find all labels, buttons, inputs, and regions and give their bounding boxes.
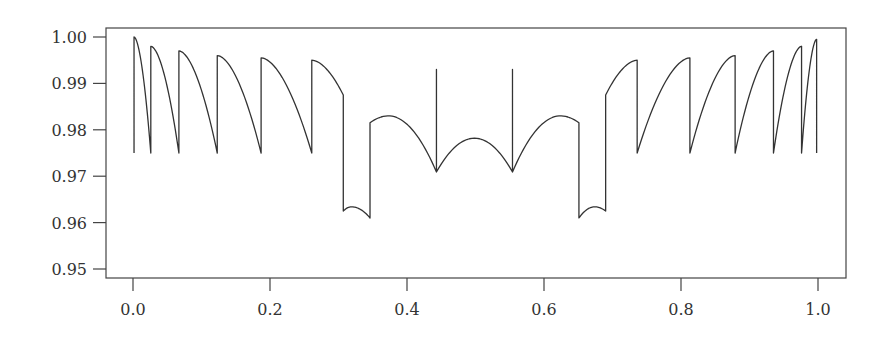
x-tick-label: 0.6	[531, 300, 556, 319]
y-tick-label: 0.96	[51, 214, 87, 233]
y-tick-label: 0.97	[51, 167, 87, 186]
x-tick-label: 0.8	[668, 300, 693, 319]
y-tick-label: 0.99	[51, 74, 87, 93]
x-tick-label: 0.4	[394, 300, 419, 319]
chart: 1.000.990.980.970.960.95 0.00.20.40.60.8…	[0, 0, 890, 347]
y-tick-label: 0.98	[51, 121, 87, 140]
y-tick-label: 1.00	[51, 28, 87, 47]
x-tick-label: 0.0	[120, 300, 145, 319]
x-tick-label: 1.0	[805, 300, 830, 319]
y-axis: 1.000.990.980.970.960.95	[51, 28, 106, 279]
x-tick-label: 0.2	[257, 300, 282, 319]
data-line	[134, 37, 817, 218]
x-axis: 0.00.20.40.60.81.0	[120, 278, 830, 319]
chart-canvas: 1.000.990.980.970.960.95 0.00.20.40.60.8…	[0, 0, 890, 347]
y-tick-label: 0.95	[51, 260, 87, 279]
